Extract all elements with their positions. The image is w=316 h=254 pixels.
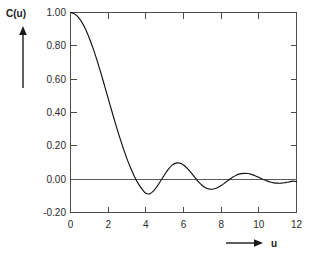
y-axis-title: C(u): [6, 8, 26, 19]
y-tick-label: 0.20: [47, 140, 67, 151]
x-tick-label: 10: [253, 219, 265, 230]
x-axis-title: u: [271, 238, 277, 249]
y-tick-label: -0.20: [43, 207, 66, 218]
x-tick-label: 0: [68, 219, 74, 230]
y-tick-label: 0.40: [47, 107, 67, 118]
y-tick-label: 0.60: [47, 74, 67, 85]
x-tick-label: 2: [105, 219, 111, 230]
y-tick-label: 0.80: [47, 40, 67, 51]
correlation-function-chart: 1.00 0.80 0.60 0.40 0.20 0.00 -0.20 0 2 …: [0, 0, 316, 254]
x-tick-label: 8: [218, 219, 224, 230]
x-tick-label: 12: [291, 219, 303, 230]
y-tick-label: 1.00: [47, 7, 67, 18]
y-tick-label: 0.00: [47, 174, 67, 185]
x-tick-label: 4: [143, 219, 149, 230]
x-tick-label: 6: [181, 219, 187, 230]
